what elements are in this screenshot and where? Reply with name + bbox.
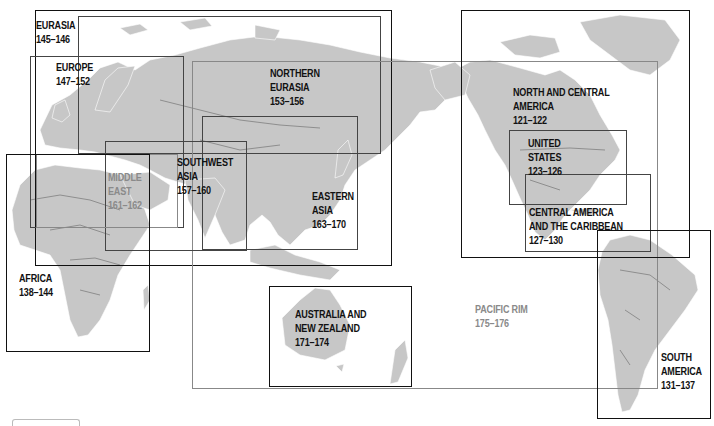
label-united-states[interactable]: UNITED STATES 123–126 [528,136,562,178]
label-middle-east[interactable]: MIDDLE EAST 161–162 [108,170,142,212]
label-northern-eurasia[interactable]: NORTHERN EURASIA 153–156 [270,66,320,108]
label-south-america[interactable]: SOUTH AMERICA 131–137 [661,350,702,392]
label-eurasia[interactable]: EURASIA 145–146 [36,18,75,46]
label-southwest-asia[interactable]: SOUTHWEST ASIA 157–160 [177,155,233,197]
label-pacific-rim[interactable]: PACIFIC RIM 175–176 [475,302,528,330]
label-africa[interactable]: AFRICA 138–144 [19,271,53,299]
label-eastern-asia[interactable]: EASTERN ASIA 163–170 [312,189,354,231]
label-central-america-caribbean[interactable]: CENTRAL AMERICA AND THE CARIBBEAN 127–13… [529,205,623,247]
label-australia-nz[interactable]: AUSTRALIA AND NEW ZEALAND 171–174 [295,307,366,349]
label-north-central-america[interactable]: NORTH AND CENTRAL AMERICA 121–122 [513,85,610,127]
scale-bar-fragment [12,419,80,426]
label-europe[interactable]: EUROPE 147–152 [56,60,93,88]
